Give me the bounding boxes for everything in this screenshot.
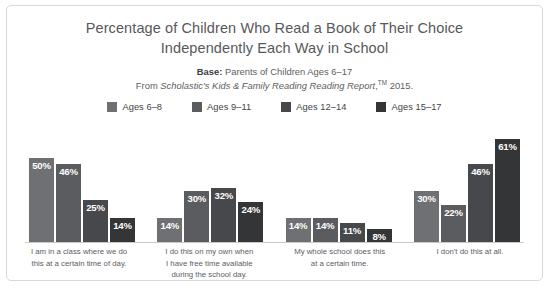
bar-value-label: 24% bbox=[238, 205, 263, 215]
bar-value-label: 25% bbox=[83, 203, 108, 213]
chart-legend: Ages 6–8 Ages 9–11 Ages 12–14 Ages 15–17 bbox=[7, 93, 542, 112]
bar[interactable]: 25% bbox=[83, 200, 108, 242]
category-label: I don't do this at all. bbox=[408, 246, 532, 281]
legend-item-ages-6-8[interactable]: Ages 6–8 bbox=[107, 102, 162, 112]
legend-label-ages-9-11: Ages 9–11 bbox=[207, 102, 251, 112]
chart-baseline-axis bbox=[25, 242, 524, 243]
bar[interactable]: 14% bbox=[286, 218, 311, 242]
chart-base-line: Base: Parents of Children Ages 6–17 bbox=[37, 65, 512, 78]
category-label-line: at a certain time. bbox=[278, 258, 402, 270]
bar-value-label: 14% bbox=[157, 221, 182, 231]
bar[interactable]: 14% bbox=[110, 218, 135, 242]
category-label-line: I am in a class where we do bbox=[17, 246, 141, 258]
category-label-line: I don't do this at all. bbox=[408, 246, 532, 258]
bar-group: 14%14%11%8% bbox=[286, 124, 392, 242]
source-title: Scholastic's Kids & Family Reading Readi… bbox=[160, 80, 375, 91]
bar[interactable]: 11% bbox=[340, 223, 365, 242]
bar-value-label: 14% bbox=[286, 221, 311, 231]
legend-swatch-icon-ages-6-8 bbox=[107, 102, 117, 112]
bar[interactable]: 32% bbox=[211, 188, 236, 242]
bar-group: 50%46%25%14% bbox=[29, 124, 135, 242]
bar[interactable]: 24% bbox=[238, 202, 263, 242]
category-label: I am in a class where we dothis at a cer… bbox=[17, 246, 141, 281]
base-label: Base: bbox=[197, 66, 223, 77]
bar[interactable]: 8% bbox=[367, 229, 392, 242]
category-label-line: during the school day. bbox=[147, 269, 271, 281]
legend-swatch-icon-ages-9-11 bbox=[192, 102, 202, 112]
bar[interactable]: 14% bbox=[157, 218, 182, 242]
category-label: My whole school does thisat a certain ti… bbox=[278, 246, 402, 281]
category-label-line: My whole school does this bbox=[278, 246, 402, 258]
bar-value-label: 46% bbox=[468, 167, 493, 177]
chart-title-line-2: Independently Each Way in School bbox=[47, 38, 502, 58]
bar-value-label: 11% bbox=[340, 226, 365, 236]
bar[interactable]: 30% bbox=[414, 191, 439, 242]
legend-item-ages-12-14[interactable]: Ages 12–14 bbox=[281, 102, 346, 112]
bar-value-label: 46% bbox=[56, 167, 81, 177]
legend-label-ages-12-14: Ages 12–14 bbox=[296, 102, 346, 112]
bar[interactable]: 46% bbox=[468, 164, 493, 242]
chart-category-labels: I am in a class where we dothis at a cer… bbox=[7, 246, 542, 281]
bar-value-label: 61% bbox=[495, 142, 520, 152]
category-label-line: I do this on my own when bbox=[147, 246, 271, 258]
bar[interactable]: 61% bbox=[495, 139, 520, 242]
chart-subtitle: Base: Parents of Children Ages 6–17 From… bbox=[7, 58, 542, 93]
bar-value-label: 30% bbox=[184, 194, 209, 204]
chart-plot-area: 50%46%25%14%14%30%32%24%14%14%11%8%30%22… bbox=[7, 124, 542, 242]
category-label-line: I have free time available bbox=[147, 258, 271, 270]
bar[interactable]: 30% bbox=[184, 191, 209, 242]
legend-swatch-icon-ages-15-17 bbox=[376, 102, 386, 112]
chart-card: Percentage of Children Who Read a Book o… bbox=[6, 5, 543, 281]
bar[interactable]: 14% bbox=[313, 218, 338, 242]
bar-value-label: 30% bbox=[414, 194, 439, 204]
category-label-line: this at a certain time of day. bbox=[17, 258, 141, 270]
legend-label-ages-15-17: Ages 15–17 bbox=[391, 102, 441, 112]
bar[interactable]: 46% bbox=[56, 164, 81, 242]
bar[interactable]: 22% bbox=[441, 205, 466, 242]
bar-value-label: 14% bbox=[313, 221, 338, 231]
base-text: Parents of Children Ages 6–17 bbox=[222, 66, 352, 77]
bar[interactable]: 50% bbox=[29, 158, 54, 242]
bar-value-label: 50% bbox=[29, 161, 54, 171]
chart-title-line-1: Percentage of Children Who Read a Book o… bbox=[47, 18, 502, 38]
legend-swatch-icon-ages-12-14 bbox=[281, 102, 291, 112]
bar-group: 14%30%32%24% bbox=[157, 124, 263, 242]
source-prefix: From bbox=[136, 80, 160, 91]
trademark-mark: TM bbox=[378, 79, 387, 86]
bar-value-label: 14% bbox=[110, 221, 135, 231]
bar-group: 30%22%46%61% bbox=[414, 124, 520, 242]
chart-title: Percentage of Children Who Read a Book o… bbox=[7, 6, 542, 58]
category-label: I do this on my own whenI have free time… bbox=[147, 246, 271, 281]
source-suffix: 2015. bbox=[387, 80, 413, 91]
legend-item-ages-9-11[interactable]: Ages 9–11 bbox=[192, 102, 251, 112]
bar-value-label: 22% bbox=[441, 208, 466, 218]
bar-value-label: 8% bbox=[367, 232, 392, 242]
bar-value-label: 32% bbox=[211, 191, 236, 201]
legend-label-ages-6-8: Ages 6–8 bbox=[122, 102, 162, 112]
chart-source-line: From Scholastic's Kids & Family Reading … bbox=[37, 78, 512, 92]
legend-item-ages-15-17[interactable]: Ages 15–17 bbox=[376, 102, 441, 112]
